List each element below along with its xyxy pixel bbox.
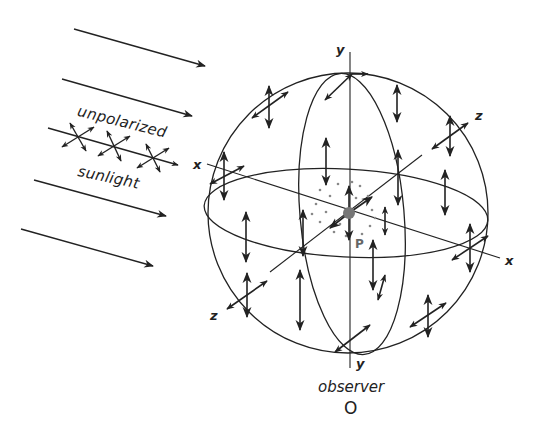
label-axis-x-right: x bbox=[505, 253, 513, 268]
cross-z-right bbox=[432, 116, 468, 156]
scattering-dots bbox=[311, 181, 377, 238]
label-point-p: P bbox=[355, 237, 364, 251]
unpolarized-star-1 bbox=[62, 123, 94, 151]
cross-lower-right bbox=[410, 295, 446, 337]
label-axis-y-top: y bbox=[336, 42, 344, 57]
cross-z-left bbox=[227, 273, 267, 317]
polarization-diagram bbox=[0, 0, 536, 441]
cross-x-left bbox=[210, 152, 244, 200]
label-axis-z-left: z bbox=[210, 308, 218, 323]
sunlight-ray-4 bbox=[21, 229, 153, 266]
label-observer-point: O bbox=[344, 398, 357, 418]
unpolarized-star-3 bbox=[137, 144, 169, 172]
label-axis-y-bottom: y bbox=[356, 356, 364, 371]
point-p-group bbox=[330, 186, 372, 240]
label-axis-z-right: z bbox=[475, 108, 483, 123]
label-axis-x-left: x bbox=[193, 157, 201, 172]
sunlight-ray-3 bbox=[34, 180, 166, 216]
pol-arrow bbox=[378, 275, 385, 300]
unpolarized-star-2 bbox=[98, 131, 130, 161]
sunlight-rays bbox=[21, 29, 205, 266]
label-observer: observer bbox=[318, 378, 384, 396]
point-p bbox=[343, 207, 355, 219]
sunlight-ray-1 bbox=[74, 29, 205, 66]
polarization-arrows bbox=[246, 85, 445, 330]
